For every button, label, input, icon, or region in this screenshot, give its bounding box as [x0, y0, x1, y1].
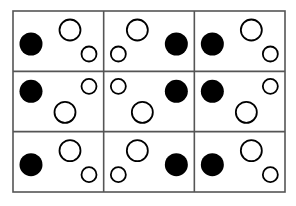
small-hollow-dot [82, 167, 97, 182]
cells-layer [13, 11, 285, 192]
cell-r1c2 [104, 11, 195, 71]
cell-r1c1 [13, 11, 104, 71]
figure-canvas [0, 0, 296, 206]
large-filled-dot [20, 33, 43, 56]
cell-r3c1 [13, 132, 104, 192]
large-hollow-dot [55, 102, 76, 123]
cell-r2c2 [104, 71, 195, 131]
large-filled-dot [165, 153, 188, 176]
small-hollow-dot [263, 47, 278, 62]
large-filled-dot [165, 80, 188, 103]
cell-r3c3 [194, 132, 285, 192]
large-filled-dot [201, 153, 224, 176]
large-hollow-dot [60, 20, 81, 41]
large-hollow-dot [60, 140, 81, 161]
small-hollow-dot [111, 167, 126, 182]
cell-r2c3 [194, 71, 285, 131]
large-filled-dot [20, 153, 43, 176]
large-hollow-dot [127, 140, 148, 161]
cell-r1c3 [194, 11, 285, 71]
small-hollow-dot [111, 79, 126, 94]
large-filled-dot [20, 80, 43, 103]
small-hollow-dot [82, 79, 97, 94]
small-hollow-dot [263, 167, 278, 182]
large-filled-dot [201, 33, 224, 56]
cell-r2c1 [13, 71, 104, 131]
large-filled-dot [165, 33, 188, 56]
large-hollow-dot [241, 140, 262, 161]
dot-grid-figure [0, 0, 296, 206]
large-hollow-dot [132, 102, 153, 123]
large-hollow-dot [127, 20, 148, 41]
large-hollow-dot [241, 20, 262, 41]
cell-r3c2 [104, 132, 195, 192]
large-filled-dot [201, 80, 224, 103]
small-hollow-dot [82, 47, 97, 62]
large-hollow-dot [236, 102, 257, 123]
small-hollow-dot [111, 47, 126, 62]
small-hollow-dot [263, 79, 278, 94]
